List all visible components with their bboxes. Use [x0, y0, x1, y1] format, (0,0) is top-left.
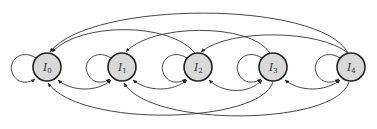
edge-i1-i2: [133, 80, 187, 89]
state-diagram: I0 I1 I2 I3 I4: [0, 0, 377, 129]
node-subscript-i1: 1: [122, 67, 126, 75]
node-i0: I0: [33, 53, 61, 81]
node-i4: I4: [337, 53, 365, 81]
edge-i0-i1: [58, 80, 111, 89]
edge-i3-i4: [285, 80, 340, 89]
node-i1: I1: [108, 53, 136, 81]
node-subscript-i4: 4: [351, 67, 356, 75]
edge-i2-i0: [52, 30, 195, 53]
edge-i4-i1: [124, 82, 349, 116]
edge-i3-i0: [48, 82, 273, 115]
edge-i4-i0: [50, 13, 348, 53]
node-i2: I2: [184, 53, 212, 81]
node-subscript-i3: 3: [273, 67, 277, 75]
edge-i4-i2: [201, 35, 348, 53]
node-i3: I3: [259, 53, 287, 81]
edges: [11, 13, 349, 116]
node-subscript-i2: 2: [198, 67, 202, 75]
edge-i3-i1: [126, 30, 270, 53]
node-subscript-i0: 0: [47, 67, 51, 75]
